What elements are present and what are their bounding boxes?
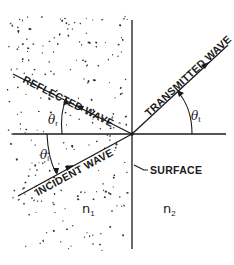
- medium-2-index-label: n2: [163, 201, 176, 218]
- surface-label: SURFACE: [150, 164, 202, 176]
- incidence-point: [130, 132, 134, 136]
- theta-i-label: θi: [40, 148, 49, 163]
- reflected-wave-label: REFLECTED WAVE: [21, 73, 116, 129]
- theta-t-arc: [178, 92, 192, 134]
- refraction-diagram: REFLECTED WAVE TRANSMITTED WAVE INCIDENT…: [0, 0, 234, 265]
- medium-1-index-label: n1: [82, 201, 95, 218]
- theta-r-label: θr: [48, 113, 58, 128]
- surface-pointer: [134, 165, 148, 170]
- theta-t-label: θt: [191, 109, 201, 124]
- transmitted-wave-label: TRANSMITTED WAVE: [142, 33, 233, 119]
